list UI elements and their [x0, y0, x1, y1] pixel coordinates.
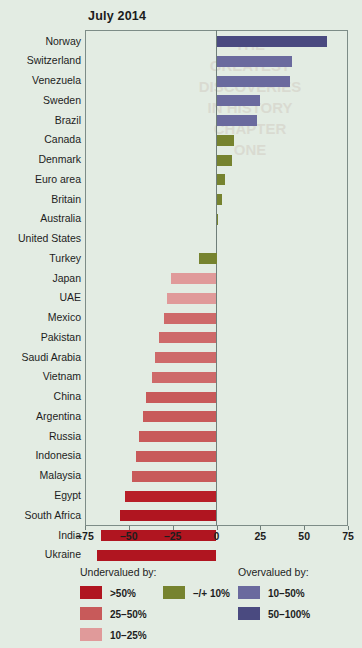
category-label-britain: Britain	[51, 194, 81, 205]
legend-title-undervalued: Undervalued by:	[80, 566, 156, 578]
x-tick-label: –50	[120, 530, 138, 542]
category-label-saudi-arabia: Saudi Arabia	[21, 352, 81, 363]
legend-swatch-undervalued-0	[80, 586, 102, 599]
legend-title-overvalued: Overvalued by:	[238, 566, 309, 578]
legend-label-undervalued-0: >50%	[110, 588, 136, 599]
legend-label-overvalued-0: 10–50%	[268, 588, 305, 599]
category-label-switzerland: Switzerland	[27, 55, 81, 66]
category-label-venezuela: Venezuela	[32, 75, 81, 86]
category-label-turkey: Turkey	[49, 253, 81, 264]
category-label-japan: Japan	[52, 273, 81, 284]
x-tick-label: 50	[298, 530, 310, 542]
zero-axis-line	[216, 30, 217, 526]
chart-legend: Undervalued by:Overvalued by:>50%25–50%1…	[0, 560, 362, 648]
legend-label-undervalued-1: 25–50%	[110, 609, 147, 620]
category-label-argentina: Argentina	[36, 411, 81, 422]
category-label-united-states: United States	[18, 233, 81, 244]
category-label-brazil: Brazil	[55, 115, 81, 126]
category-label-mexico: Mexico	[48, 312, 81, 323]
x-tick-label: 0	[214, 530, 220, 542]
legend-label-overvalued-1: 50–100%	[268, 609, 310, 620]
legend-swatch-undervalued-1	[80, 607, 102, 620]
category-label-euro-area: Euro area	[35, 174, 81, 185]
category-label-uae: UAE	[59, 292, 81, 303]
x-tick-label: –25	[164, 530, 182, 542]
legend-swatch-overvalued-1	[238, 607, 260, 620]
category-label-malaysia: Malaysia	[40, 470, 81, 481]
category-label-canada: Canada	[44, 134, 81, 145]
x-tick-label: –75	[76, 530, 94, 542]
legend-label-neutral-0: –/+ 10%	[193, 588, 230, 599]
x-tick-label: 75	[342, 530, 354, 542]
x-tick-label: 25	[254, 530, 266, 542]
legend-swatch-overvalued-0	[238, 586, 260, 599]
legend-swatch-undervalued-2	[80, 628, 102, 641]
bar-india	[101, 530, 217, 541]
category-label-ukraine: Ukraine	[45, 549, 81, 560]
chart-title: July 2014	[88, 9, 146, 23]
category-label-norway: Norway	[45, 36, 81, 47]
category-label-sweden: Sweden	[43, 95, 81, 106]
category-label-pakistan: Pakistan	[41, 332, 81, 343]
legend-swatch-neutral-0	[163, 586, 185, 599]
legend-label-undervalued-2: 10–25%	[110, 630, 147, 641]
category-label-denmark: Denmark	[38, 154, 81, 165]
category-label-south-africa: South Africa	[24, 510, 81, 521]
category-label-egypt: Egypt	[54, 490, 81, 501]
category-label-vietnam: Vietnam	[43, 371, 81, 382]
category-label-china: China	[54, 391, 81, 402]
category-label-russia: Russia	[49, 431, 81, 442]
category-label-australia: Australia	[40, 213, 81, 224]
category-label-indonesia: Indonesia	[35, 450, 81, 461]
